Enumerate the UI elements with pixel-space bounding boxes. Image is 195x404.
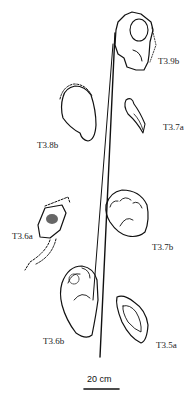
- label-t37b: T3.7b: [152, 242, 173, 252]
- label-t36b: T3.6b: [43, 336, 64, 346]
- footprint-t37b: [106, 190, 148, 237]
- trackway-line-2: [93, 44, 113, 300]
- footprint-t38b: [60, 84, 96, 141]
- scale-bar-label: 20 cm: [87, 374, 112, 384]
- footprint-t39b: [115, 12, 156, 70]
- label-t38b: T3.8b: [37, 140, 58, 150]
- label-t35a: T3.5a: [156, 340, 177, 350]
- trackway-line: [100, 33, 115, 357]
- label-t36a: T3.6a: [12, 231, 33, 241]
- footprint-t37a: [125, 99, 145, 133]
- label-t39b: T3.9b: [158, 56, 179, 66]
- label-t37a: T3.7a: [163, 122, 184, 132]
- footprint-t36b: [61, 266, 99, 337]
- footprint-t35a: [117, 296, 148, 343]
